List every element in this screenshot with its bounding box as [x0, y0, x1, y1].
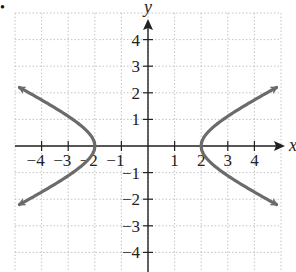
x-tick-label: 3	[224, 151, 233, 170]
x-tick-label: 4	[250, 151, 259, 170]
y-tick-label: −1	[122, 164, 140, 183]
x-axis-label: x	[288, 135, 296, 155]
x-tick-label: 1	[170, 151, 179, 170]
y-tick-label: 2	[132, 84, 141, 103]
y-tick-label: 3	[132, 57, 141, 76]
y-tick-label: 1	[132, 110, 141, 129]
x-tick-label: −3	[53, 151, 71, 170]
y-tick-label: −4	[122, 243, 141, 262]
y-axis-label: y	[142, 0, 152, 17]
x-tick-label: −4	[27, 151, 46, 170]
problem-bullet: •	[0, 0, 5, 15]
axes	[15, 19, 285, 272]
y-tick-label: −2	[122, 190, 140, 209]
y-tick-label: −3	[122, 217, 140, 236]
hyperbola-graph: • −4−3−2−11234−4−3−2−11234 x y	[0, 0, 296, 272]
y-tick-label: 4	[132, 31, 141, 50]
